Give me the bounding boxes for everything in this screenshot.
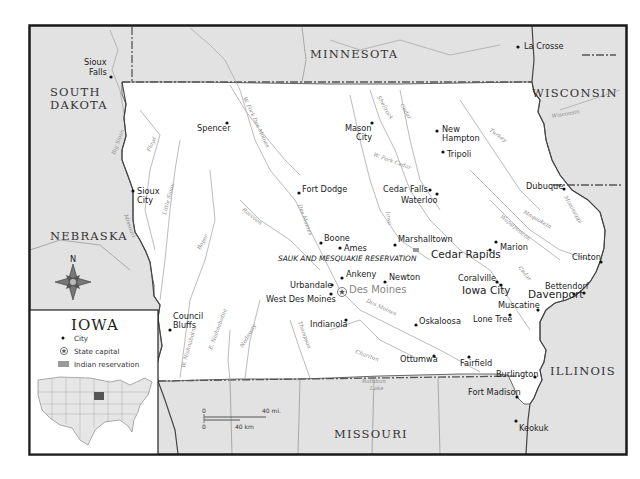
state-label-wisconsin: WISCONSIN xyxy=(532,86,618,100)
city-west-des-moines: West Des Moines xyxy=(266,294,336,304)
state-label-south-dakota-2: DAKOTA xyxy=(50,98,108,112)
city-cedar-falls: Cedar Falls xyxy=(383,184,428,194)
city-tripoli: Tripoli xyxy=(446,149,471,159)
city-keokuk: Keokuk xyxy=(519,423,549,433)
reservation-label: SAUK AND MESQUAKIE RESERVATION xyxy=(278,254,417,263)
city-indianola: Indianola xyxy=(310,319,348,329)
iowa-map: MINNESOTA SOUTH DAKOTA WISCONSIN NEBRASK… xyxy=(0,0,640,479)
city-marshalltown: Marshalltown xyxy=(398,234,453,244)
city-dot-icon xyxy=(62,337,65,340)
city-fort-dodge: Fort Dodge xyxy=(302,184,347,194)
indian-reservation-icon xyxy=(58,361,69,367)
city-coralville: Coralville xyxy=(458,273,496,283)
legend-title: IOWA xyxy=(71,316,119,334)
city-boone: Boone xyxy=(324,233,350,243)
city-dubuque: Dubuque xyxy=(526,181,563,191)
inset-iowa-highlight xyxy=(94,392,104,400)
legend-state-capital: State capital xyxy=(74,347,119,356)
legend-indian-reservation: Indian reservation xyxy=(74,360,139,369)
city-marion: Marion xyxy=(500,242,528,252)
city-ottumwa: Ottumwa xyxy=(400,354,438,364)
city-oskaloosa: Oskaloosa xyxy=(419,316,461,326)
svg-text:40 km: 40 km xyxy=(235,423,254,430)
state-capital-icon xyxy=(338,288,347,297)
svg-text:0: 0 xyxy=(202,407,206,414)
state-label-nebraska: NEBRASKA xyxy=(50,229,128,243)
city-spencer: Spencer xyxy=(197,123,231,133)
city-sioux-falls: Sioux xyxy=(84,57,107,67)
city-mason-city-2: City xyxy=(356,132,372,142)
state-label-missouri: MISSOURI xyxy=(334,427,408,441)
city-sioux-falls-2: Falls xyxy=(89,67,107,77)
city-burlington: Burlington xyxy=(496,369,539,379)
city-newton: Newton xyxy=(389,272,420,282)
legend-panel: IOWA City State capital Indian reservati… xyxy=(30,310,158,454)
sauk-mesquakie-reservation-marker xyxy=(413,248,419,252)
river-label-rathbun-lake-2: Lake xyxy=(369,385,384,391)
city-fort-madison: Fort Madison xyxy=(468,387,521,397)
city-ankeny: Ankeny xyxy=(346,269,376,279)
city-lone-tree: Lone Tree xyxy=(473,314,512,324)
city-clinton: Clinton xyxy=(572,252,601,262)
state-label-illinois: ILLINOIS xyxy=(550,364,616,378)
svg-text:40 mi.: 40 mi. xyxy=(262,407,281,414)
state-label-minnesota: MINNESOTA xyxy=(310,47,398,61)
city-new-hampton-2: Hampton xyxy=(442,133,480,143)
legend-city: City xyxy=(74,334,89,343)
state-label-south-dakota: SOUTH xyxy=(50,85,101,99)
city-ames: Ames xyxy=(344,243,367,253)
city-sioux-city-2: City xyxy=(137,195,153,205)
state-capital-legend-icon xyxy=(60,347,67,354)
city-davenport: Davenport xyxy=(528,288,583,300)
city-muscatine: Muscatine xyxy=(498,300,540,310)
svg-text:0: 0 xyxy=(202,423,206,430)
river-label-rathbun-lake: Rathbun xyxy=(361,378,386,384)
city-waterloo: Waterloo xyxy=(401,195,438,205)
city-urbandale: Urbandale xyxy=(290,280,332,290)
city-cedar-rapids: Cedar Rapids xyxy=(431,248,501,260)
city-fairfield: Fairfield xyxy=(460,358,492,368)
compass-north-label: N xyxy=(70,254,76,264)
city-la-crosse: La Crosse xyxy=(524,41,564,51)
city-iowa-city: Iowa City xyxy=(462,284,510,296)
city-des-moines: Des Moines xyxy=(349,284,406,295)
